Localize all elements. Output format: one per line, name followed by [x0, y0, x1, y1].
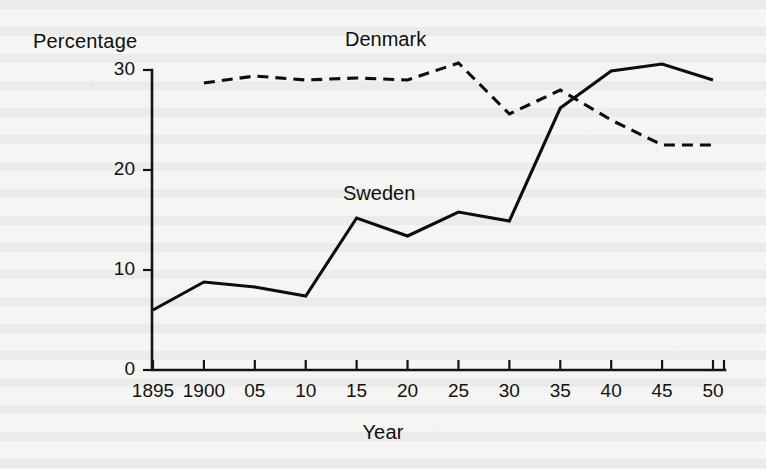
y-tick-label: 10 [89, 258, 135, 280]
series-annotation-sweden: Sweden [343, 182, 415, 205]
scanned-chart-page: Percentage Year Denmark Sweden 0102030 1… [0, 0, 766, 469]
y-tick-label: 0 [89, 358, 135, 380]
x-axis-title: Year [0, 421, 766, 444]
chart-series-lines [153, 63, 713, 310]
series-line-denmark [204, 63, 713, 145]
series-annotation-denmark: Denmark [345, 28, 426, 51]
y-tick-label: 20 [89, 158, 135, 180]
series-line-sweden [153, 64, 713, 310]
y-tick-label: 30 [89, 58, 135, 80]
x-tick-label: 50 [683, 380, 743, 402]
y-axis-title: Percentage [33, 30, 137, 53]
chart-tick-marks [143, 70, 724, 370]
